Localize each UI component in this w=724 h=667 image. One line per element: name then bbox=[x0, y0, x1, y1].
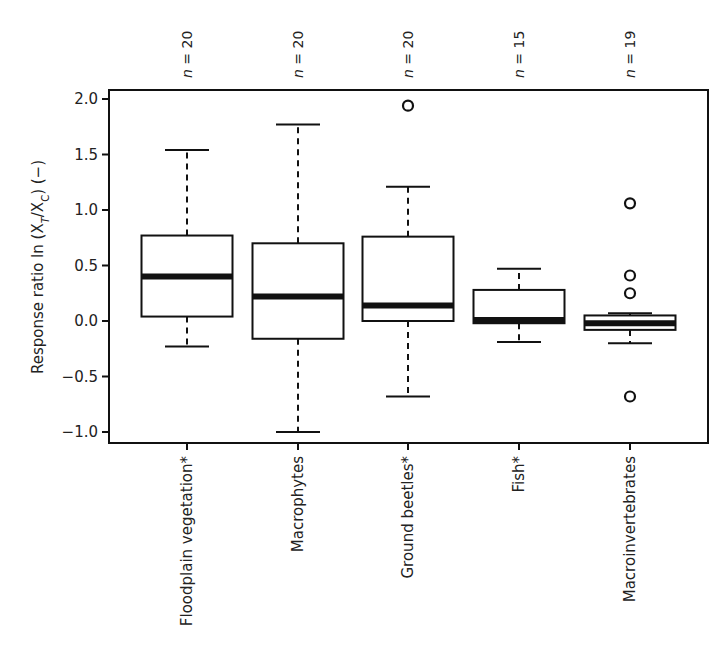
x-category-label: Ground beetles* bbox=[399, 456, 417, 579]
box-ground-beetles bbox=[363, 101, 454, 397]
x-category-label: Floodplain vegetation* bbox=[178, 456, 196, 627]
sample-size-label: n = 19 bbox=[622, 31, 638, 78]
box-plot-chart: −1.0−0.50.00.51.01.52.0 Floodplain veget… bbox=[0, 0, 724, 667]
x-category-label: Fish* bbox=[510, 456, 528, 493]
sample-size-label: n = 20 bbox=[179, 31, 195, 78]
box-fish bbox=[474, 269, 565, 342]
x-category-label: Macrophytes bbox=[289, 456, 307, 552]
box-macroinvertebrates bbox=[585, 198, 676, 401]
boxes bbox=[142, 101, 676, 432]
x-category-label: Macroinvertebrates bbox=[621, 456, 639, 602]
sample-size-labels: n = 20n = 20n = 20n = 15n = 19 bbox=[179, 31, 638, 78]
y-axis: −1.0−0.50.00.51.01.52.0 bbox=[62, 90, 109, 441]
sample-size-label: n = 20 bbox=[290, 31, 306, 78]
outlier-point bbox=[403, 101, 413, 111]
box-floodplain-vegetation bbox=[142, 150, 233, 346]
outlier-point bbox=[625, 270, 635, 280]
y-tick-label: 2.0 bbox=[74, 90, 98, 108]
box-macrophytes bbox=[253, 125, 344, 432]
y-tick-label: 1.5 bbox=[74, 146, 98, 164]
y-tick-label: 1.0 bbox=[74, 201, 98, 219]
iqr-box bbox=[253, 243, 344, 338]
y-tick-label: 0.5 bbox=[74, 257, 98, 275]
outlier-point bbox=[625, 288, 635, 298]
y-tick-label: 0.0 bbox=[74, 312, 98, 330]
sample-size-label: n = 20 bbox=[400, 31, 416, 78]
sample-size-label: n = 15 bbox=[511, 31, 527, 78]
y-tick-label: −1.0 bbox=[62, 423, 98, 441]
y-axis-title: Response ratio ln (XT/XC) (−) bbox=[29, 160, 51, 374]
outlier-point bbox=[625, 391, 635, 401]
x-axis: Floodplain vegetation*MacrophytesGround … bbox=[178, 443, 639, 626]
outlier-point bbox=[625, 198, 635, 208]
y-tick-label: −0.5 bbox=[62, 368, 98, 386]
